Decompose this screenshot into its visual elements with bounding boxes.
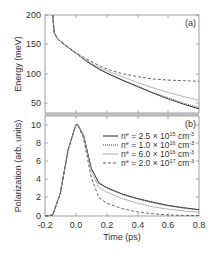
panel-label-b: (b)	[185, 119, 196, 129]
panel-separator	[45, 113, 199, 116]
panel-label-a: (a)	[185, 18, 196, 28]
series-line	[53, 15, 199, 100]
xtick-0.2: 0.2	[101, 220, 114, 230]
series-line	[53, 15, 199, 81]
x-axis-label: Time (ps)	[103, 232, 141, 242]
ytick-b-2: 2	[36, 192, 41, 202]
xtick-0.4: 0.4	[132, 220, 145, 230]
ytick-a-100: 100	[26, 69, 41, 79]
y-axis-label-a: Energy (meV)	[13, 36, 23, 92]
xtick-0.6: 0.6	[162, 220, 175, 230]
ytick-b-8: 8	[36, 138, 41, 148]
xtick-0.8: 0.8	[193, 220, 206, 230]
ytick-b-6: 6	[36, 156, 41, 166]
ytick-a-200: 200	[26, 10, 41, 20]
legend: ne = 2.5 × 1015 cm-3 ne = 1.0 × 1016 cm-…	[103, 131, 194, 168]
y-axis-label-b: Polarization (arb. units)	[13, 120, 23, 213]
chart-figure: 200 150 100 50 10 8 6 4 2 0 -0.2 0.0 0.2…	[0, 0, 214, 258]
ytick-a-150: 150	[26, 39, 41, 49]
panel-a-curves	[53, 15, 199, 109]
ytick-b-4: 4	[36, 174, 41, 184]
legend-entry-4: ne = 2.0 × 1017 cm-3	[121, 158, 194, 168]
series-line	[53, 15, 199, 108]
xtick-0.0: 0.0	[70, 220, 83, 230]
xtick-m0.2: -0.2	[37, 220, 53, 230]
ytick-b-10: 10	[31, 120, 41, 130]
ytick-a-50: 50	[31, 98, 41, 108]
panel-a-frame	[45, 15, 199, 113]
